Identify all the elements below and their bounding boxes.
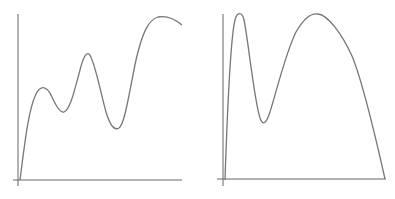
chart-canvas — [0, 0, 395, 199]
right-curve — [225, 14, 385, 180]
right-plot — [217, 14, 386, 186]
left-plot — [13, 14, 182, 186]
left-curve — [20, 17, 182, 180]
